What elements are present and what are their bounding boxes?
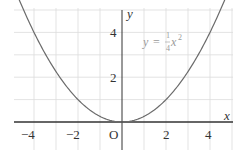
x-axis-label: x [223,108,230,123]
equation-exponent: 2 [178,33,182,42]
equation-variable: x [170,35,177,49]
origin-label: O [109,127,118,142]
parabola-curve [19,0,227,122]
equation-denominator: 4 [166,44,170,53]
parabola-chart: x y O −4 −2 2 4 4 2 y = 1 4 x 2 [0,0,245,154]
equation-annotation: y = 1 4 x 2 [142,31,182,53]
y-axis-label: y [125,6,133,21]
x-tick-label: −4 [21,127,35,142]
y-tick-label: 4 [110,25,117,40]
grid-lines [14,8,233,150]
equation-lhs: y [142,35,149,49]
x-tick-label: 4 [205,127,212,142]
equation-equals: = [153,35,160,49]
x-tick-label: 2 [163,127,170,142]
axes [14,10,233,150]
equation-numerator: 1 [166,31,170,40]
x-tick-label: −2 [66,127,80,142]
y-tick-label: 2 [110,70,117,85]
